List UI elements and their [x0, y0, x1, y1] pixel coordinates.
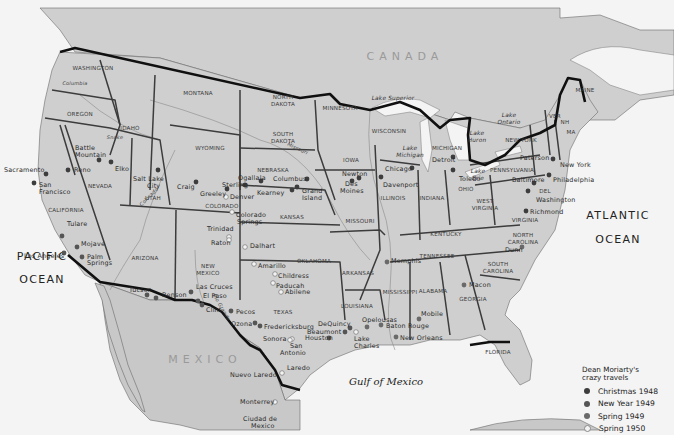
svg-text:New Orleans: New Orleans	[400, 334, 443, 342]
marker-laredo	[280, 371, 285, 376]
marker-las-cruces	[189, 290, 194, 295]
marker-beaumont	[343, 330, 348, 335]
svg-text:Sterling: Sterling	[222, 181, 248, 189]
svg-text:Dunn: Dunn	[505, 246, 523, 254]
marker-elko	[109, 160, 114, 165]
svg-text:Mojave: Mojave	[81, 240, 105, 248]
svg-text:Childress: Childress	[278, 272, 309, 280]
ocean-label-pacific-2: OCEAN	[19, 273, 65, 286]
svg-text:MONTANA: MONTANA	[183, 90, 213, 96]
svg-text:NORTH: NORTH	[513, 232, 534, 238]
svg-text:Greeley: Greeley	[200, 190, 226, 198]
svg-text:Ozona: Ozona	[231, 320, 252, 328]
marker-amarillo	[252, 262, 257, 267]
marker-palm-springs	[80, 255, 85, 260]
svg-text:Sacramento: Sacramento	[4, 166, 45, 174]
svg-text:Washington: Washington	[536, 196, 576, 204]
svg-text:OKLAHOMA: OKLAHOMA	[297, 258, 331, 264]
svg-text:Abilene: Abilene	[285, 288, 310, 296]
legend: Dean Moriarty's crazy travels Christmas …	[582, 366, 672, 435]
svg-text:Clint: Clint	[206, 306, 222, 314]
svg-text:KENTUCKY: KENTUCKY	[430, 231, 462, 237]
svg-text:Lake: Lake	[403, 145, 418, 151]
svg-text:DAKOTA: DAKOTA	[271, 101, 295, 107]
svg-text:New York: New York	[560, 161, 591, 169]
svg-text:WASHINGTON: WASHINGTON	[73, 65, 114, 71]
svg-text:NH: NH	[561, 119, 570, 125]
svg-text:Los Angeles: Los Angeles	[24, 252, 65, 260]
svg-text:VIRGINIA: VIRGINIA	[472, 205, 499, 211]
svg-text:DeQuincy: DeQuincy	[318, 320, 351, 328]
svg-text:Philadelphia: Philadelphia	[553, 176, 594, 184]
svg-text:DAKOTA: DAKOTA	[271, 138, 295, 144]
svg-text:Dalhart: Dalhart	[250, 242, 275, 250]
svg-text:Beaumont: Beaumont	[307, 328, 342, 336]
marker-abilene	[279, 290, 284, 295]
legend-item-label: Spring 1949	[598, 412, 644, 421]
svg-text:Snake: Snake	[107, 134, 123, 140]
legend-item-label: Christmas 1948	[598, 387, 658, 396]
svg-text:FLORIDA: FLORIDA	[485, 349, 511, 355]
svg-text:Laredo: Laredo	[287, 364, 310, 372]
svg-text:WISCONSIN: WISCONSIN	[372, 128, 406, 134]
svg-text:Ontario: Ontario	[497, 119, 520, 125]
country-label-mexico: MEXICO	[168, 353, 242, 366]
svg-text:MEXICO: MEXICO	[196, 270, 220, 276]
svg-text:VIRGINIA: VIRGINIA	[512, 217, 539, 223]
svg-text:NEW YORK: NEW YORK	[505, 137, 537, 143]
svg-text:Reno: Reno	[74, 166, 91, 174]
legend-swatch-icon	[584, 425, 591, 432]
svg-text:NEVADA: NEVADA	[88, 183, 112, 189]
svg-text:Richmond: Richmond	[530, 208, 564, 216]
marker-el-paso	[196, 299, 201, 304]
svg-text:ARIZONA: ARIZONA	[131, 255, 158, 261]
marker-opelousas	[365, 325, 370, 330]
svg-text:GEORGIA: GEORGIA	[459, 296, 486, 302]
marker-mojave	[75, 245, 80, 250]
svg-text:Kearney: Kearney	[257, 189, 284, 197]
svg-text:Elko: Elko	[115, 165, 129, 173]
svg-text:Michigan: Michigan	[396, 152, 424, 159]
svg-text:KANSAS: KANSAS	[280, 214, 304, 220]
marker-san-francisco	[32, 181, 37, 186]
legend-swatch-icon	[584, 413, 590, 419]
marker-fredericksburg	[258, 324, 263, 329]
svg-text:Island: Island	[302, 194, 322, 202]
svg-text:Springs: Springs	[237, 218, 263, 226]
country-label-canada: CANADA	[367, 50, 444, 63]
marker-macon	[462, 283, 467, 288]
svg-text:Memphis: Memphis	[391, 257, 422, 265]
svg-text:Trinidad: Trinidad	[206, 225, 234, 233]
marker-toledo	[451, 168, 456, 173]
svg-text:Lake Superior: Lake Superior	[372, 95, 415, 102]
svg-text:Mountain: Mountain	[75, 151, 106, 159]
svg-text:CAROLINA: CAROLINA	[483, 268, 513, 274]
svg-text:MAINE: MAINE	[575, 87, 594, 93]
marker-salt-lake-city	[156, 168, 161, 173]
marker-childress	[273, 272, 278, 277]
svg-text:Huron: Huron	[468, 137, 487, 143]
marker-tulare	[60, 234, 65, 239]
svg-text:El Paso: El Paso	[203, 292, 227, 300]
svg-text:WEST: WEST	[477, 198, 494, 204]
svg-text:Tucson: Tucson	[128, 286, 152, 294]
svg-text:Moines: Moines	[340, 187, 364, 195]
svg-text:Monterrey: Monterrey	[240, 398, 274, 406]
svg-text:NORTH: NORTH	[273, 94, 294, 100]
marker-lake-charles	[354, 330, 359, 335]
marker-philadelphia	[547, 173, 552, 178]
svg-text:OREGON: OREGON	[67, 111, 93, 117]
marker-kearney	[290, 188, 295, 193]
marker-clint	[200, 303, 205, 308]
svg-text:ARKANSAS: ARKANSAS	[342, 270, 374, 276]
svg-text:Ogallala: Ogallala	[238, 174, 266, 182]
marker-new-orleans	[394, 335, 399, 340]
svg-text:WYOMING: WYOMING	[195, 145, 224, 151]
svg-text:DEL: DEL	[539, 188, 551, 194]
marker-pecos	[229, 309, 234, 314]
svg-text:Benson: Benson	[162, 291, 187, 299]
svg-text:NEW: NEW	[201, 263, 215, 269]
svg-text:SOUTH: SOUTH	[488, 261, 509, 267]
svg-text:Columbus: Columbus	[273, 175, 307, 183]
svg-text:NEBRASKA: NEBRASKA	[257, 167, 289, 173]
